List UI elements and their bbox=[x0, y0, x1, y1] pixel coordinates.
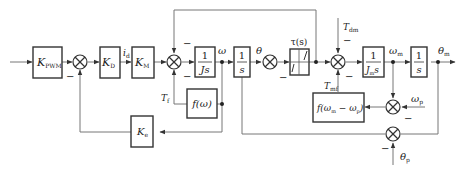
block-kd: KD bbox=[100, 47, 120, 78]
block-1-over-jms: 1 Jms bbox=[363, 47, 384, 77]
sum-junction-torque bbox=[167, 55, 181, 69]
block-integrator-1: 1 s bbox=[234, 47, 250, 77]
signal-theta-p: θp bbox=[400, 151, 410, 164]
branch-point bbox=[391, 60, 395, 64]
signal-theta-m: θm bbox=[438, 45, 450, 57]
block-f-omega: f(ω) bbox=[187, 89, 217, 118]
minus-sign: − bbox=[404, 113, 412, 124]
svg-text:1: 1 bbox=[370, 50, 376, 61]
minus-sign: − bbox=[66, 71, 74, 82]
block-integrator-2: 1 s bbox=[411, 47, 427, 77]
minus-sign: − bbox=[345, 71, 353, 82]
signal-id: id bbox=[123, 48, 130, 59]
signal-theta: θ bbox=[256, 45, 262, 56]
svg-text:f(ω): f(ω) bbox=[191, 98, 212, 109]
block-1-over-js: 1 Js bbox=[195, 47, 215, 77]
svg-text:Js: Js bbox=[198, 64, 209, 75]
control-block-diagram: KPWM − KD id KM − − 1 Js ω 1 s θ − bbox=[0, 0, 467, 172]
branch-point bbox=[436, 60, 440, 64]
svg-text:1: 1 bbox=[239, 50, 245, 61]
block-friction-relative: f(ωm − ωp) bbox=[313, 93, 364, 122]
signal-tmf: Tmf bbox=[324, 81, 339, 92]
block-tau-backlash: τ(s) bbox=[290, 37, 309, 75]
svg-text:1: 1 bbox=[416, 50, 422, 61]
svg-text:1: 1 bbox=[202, 50, 208, 61]
svg-text:s: s bbox=[416, 64, 421, 75]
block-km: KM bbox=[132, 47, 154, 78]
svg-text:τ(s): τ(s) bbox=[291, 37, 308, 47]
sum-junction-current bbox=[73, 55, 87, 69]
block-ke: Ke bbox=[131, 116, 153, 147]
signal-omega: ω bbox=[218, 45, 226, 56]
minus-sign: − bbox=[183, 71, 191, 82]
minus-sign: − bbox=[279, 72, 287, 83]
branch-point bbox=[314, 60, 318, 64]
branch-point bbox=[220, 102, 224, 106]
signal-omega-p: ωp bbox=[411, 93, 423, 106]
signal-tdm: Tdm bbox=[343, 22, 359, 33]
svg-text:s: s bbox=[239, 64, 244, 75]
minus-sign: − bbox=[343, 35, 351, 46]
signal-omega-m: ωm bbox=[389, 45, 403, 57]
sum-junction-position bbox=[263, 55, 277, 69]
sum-junction-velocity-diff bbox=[386, 100, 400, 114]
branch-point bbox=[220, 60, 224, 64]
minus-sign: − bbox=[381, 143, 389, 154]
sum-junction-position-diff bbox=[386, 127, 400, 141]
block-kpwm: KPWM bbox=[33, 47, 62, 78]
sum-junction-load bbox=[331, 55, 345, 69]
signal-tf: Tf bbox=[161, 93, 170, 104]
signal-lines bbox=[10, 10, 455, 165]
minus-sign: − bbox=[183, 38, 191, 49]
